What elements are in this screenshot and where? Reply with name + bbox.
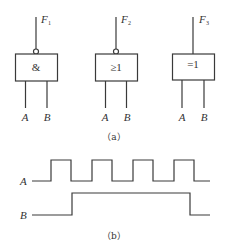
gate3-output-sub: 3 [206, 20, 209, 26]
gate2-output-label: F [120, 13, 128, 25]
gate-and-not: & F 1 A B [16, 13, 58, 123]
gate-xor: =1 F 3 A B [173, 13, 215, 123]
logic-diagram: & F 1 A B ≥1 F 2 A B =1 F 3 A B （a） A B … [0, 0, 228, 250]
gate3-input-b-label: B [201, 111, 208, 123]
caption-a: （a） [102, 132, 125, 142]
gate3-output-label: F [198, 13, 206, 25]
gate1-input-b-label: B [44, 111, 51, 123]
gate1-input-a-label: A [21, 111, 29, 123]
waveform-a [32, 160, 210, 181]
gate1-symbol: & [32, 61, 41, 73]
waveform-a-label: A [19, 175, 27, 187]
gate1-inversion-bubble [34, 49, 39, 54]
gate2-symbol: ≥1 [110, 61, 122, 73]
gate-or-not: ≥1 F 2 A B [96, 13, 138, 123]
caption-b: （b） [102, 231, 126, 241]
gate1-output-sub: 1 [48, 20, 51, 26]
gate2-inversion-bubble [114, 49, 119, 54]
gate1-output-label: F [40, 13, 48, 25]
gate2-output-sub: 2 [128, 20, 131, 26]
waveform-b [32, 193, 210, 215]
gate2-input-a-label: A [101, 111, 109, 123]
gate2-input-b-label: B [124, 111, 131, 123]
gate3-symbol: =1 [187, 58, 199, 70]
waveform-b-label: B [20, 209, 27, 221]
gate3-input-a-label: A [178, 111, 186, 123]
